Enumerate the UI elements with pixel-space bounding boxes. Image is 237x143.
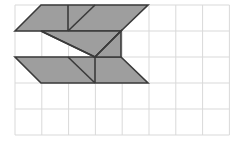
tangram-grid-svg <box>0 0 237 143</box>
figure-canvas <box>0 0 237 143</box>
figure-shapes <box>15 5 148 83</box>
